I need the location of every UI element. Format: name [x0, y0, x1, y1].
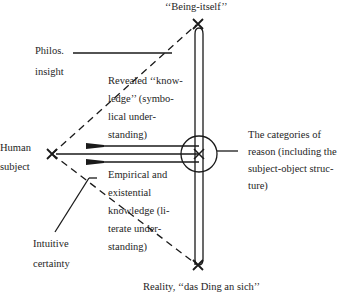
being-itself-label: ‘‘Being-itself’’ [165, 0, 228, 14]
philos-insight-label: Philos. insight [35, 40, 64, 82]
revealed-knowledge-label: Revealed ‘‘know- ledge’’ (symbo- lical u… [108, 72, 183, 144]
intuitive-certainty-label: Intuitive certainty [33, 234, 70, 274]
intuitive-certainty-pointer [55, 178, 89, 232]
arrowhead-upper-icon [86, 143, 104, 149]
human-subject-label: Human subject [0, 138, 31, 176]
categories-of-reason-label: The categories of reason (including the … [248, 126, 337, 194]
reality-label: Reality, ‘‘das Ding an sich’’ [143, 280, 260, 294]
arrowhead-lower-icon [86, 159, 104, 165]
empirical-knowledge-label: Empirical and existential knowledge (li-… [108, 166, 170, 256]
